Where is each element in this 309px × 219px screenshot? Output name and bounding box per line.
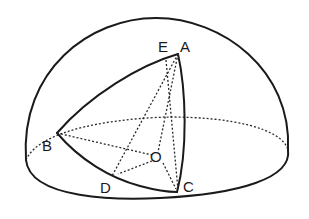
hemisphere-outline [26, 18, 289, 160]
line-O-C [163, 163, 176, 189]
arc-AC [177, 54, 185, 192]
hemisphere-diagram: E A B O D C [0, 0, 309, 219]
line-A-D [112, 54, 178, 176]
label-O: O [150, 148, 162, 165]
arc-AB [57, 54, 178, 133]
label-C: C [183, 178, 194, 195]
line-O-D [118, 161, 152, 174]
label-D: D [100, 179, 111, 196]
line-A-O [158, 54, 178, 152]
line-E-C [166, 60, 178, 190]
line-B-O [57, 133, 152, 155]
label-E: E [158, 38, 168, 55]
label-A: A [180, 38, 190, 55]
label-B: B [42, 137, 52, 154]
